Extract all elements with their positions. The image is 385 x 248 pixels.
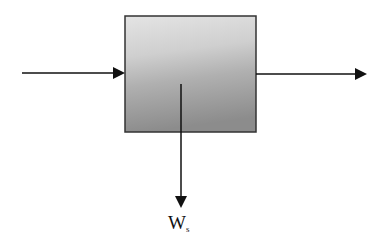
process-box [125,16,256,132]
outlet-arrow [256,68,367,80]
diagram-canvas [0,0,385,248]
inlet-arrow [22,67,125,79]
work-label: Ws [168,212,189,234]
